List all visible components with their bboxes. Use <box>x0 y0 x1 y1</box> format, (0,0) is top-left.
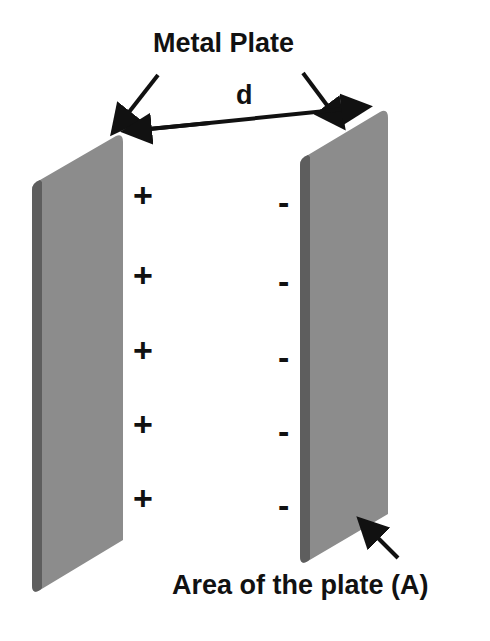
right-plate <box>300 111 388 563</box>
metal-plate-arrow-right <box>303 73 341 124</box>
negative-charge: - <box>278 340 289 374</box>
left-plate <box>32 135 123 591</box>
negative-charge: - <box>278 185 289 219</box>
capacitor-diagram: Metal Plate d Area of the plate (A) + + … <box>0 0 490 641</box>
positive-charge: + <box>133 407 153 441</box>
positive-charge: + <box>133 481 153 515</box>
metal-plate-arrow-left <box>115 75 158 130</box>
positive-charge: + <box>133 258 153 292</box>
negative-charge: - <box>278 414 289 448</box>
negative-charge: - <box>278 488 289 522</box>
metal-plate-label: Metal Plate <box>153 28 294 59</box>
positive-charge: + <box>133 178 153 212</box>
distance-label: d <box>236 80 253 111</box>
negative-charge: - <box>278 264 289 298</box>
area-label: Area of the plate (A) <box>172 570 429 601</box>
positive-charge: + <box>133 333 153 367</box>
area-arrow <box>362 522 398 558</box>
